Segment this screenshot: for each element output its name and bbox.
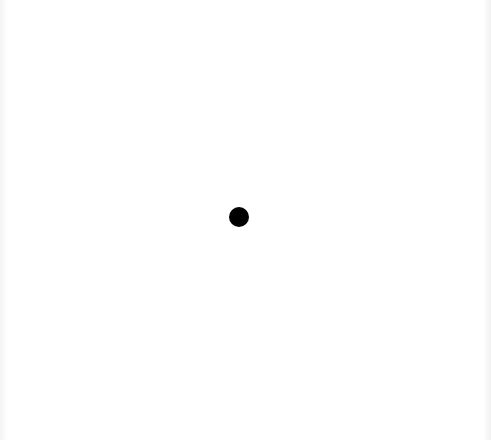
left-edge-shading <box>0 0 8 440</box>
right-edge-shading <box>483 0 491 440</box>
black-dot-icon <box>229 207 249 227</box>
blank-canvas <box>0 0 491 440</box>
